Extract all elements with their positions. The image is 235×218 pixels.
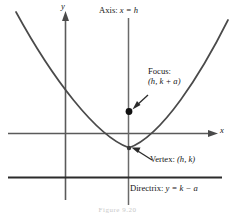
axis-of-symmetry-label: Axis: x = h: [99, 6, 138, 16]
focus-point: [126, 108, 133, 115]
parabola-figure: Axis: x = h Focus: (h, k + a) Vertex: (h…: [0, 0, 235, 218]
directrix-label: Directrix: y = k − a: [130, 184, 198, 194]
vertex-label: Vertex: (h, k): [150, 155, 195, 165]
x-axis-label: x: [220, 126, 224, 136]
axis-label-prefix: Axis:: [99, 5, 118, 15]
y-axis-label: y: [61, 2, 65, 12]
vertex-label-prefix: Vertex:: [150, 154, 175, 164]
focus-leader-arrow: [133, 95, 149, 110]
focus-label-point: (h, k + a): [148, 77, 181, 87]
figure-caption: Figure 9.20: [0, 206, 235, 214]
directrix-label-prefix: Directrix:: [130, 183, 163, 193]
directrix-label-equation: y = k − a: [166, 183, 198, 193]
x-axis: [8, 130, 218, 137]
vertex-leader-arrow: [132, 148, 153, 161]
y-axis: [62, 11, 69, 200]
vertex-point: [127, 146, 131, 150]
focus-label: Focus: (h, k + a): [148, 67, 181, 87]
vertex-label-point: (h, k): [177, 154, 195, 164]
axis-label-equation: x = h: [120, 5, 138, 15]
parabola-curve: [16, 12, 228, 148]
focus-label-prefix: Focus:: [148, 66, 171, 76]
figure-canvas: [0, 0, 235, 218]
